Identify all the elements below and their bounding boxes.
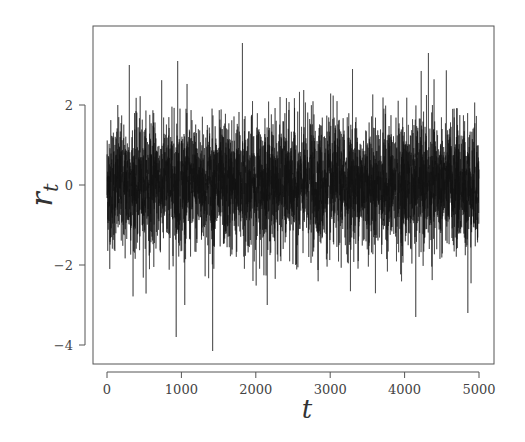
svg-text:rt: rt — [24, 183, 63, 206]
x-tick-label: 2000 — [239, 382, 272, 397]
y-tick-label: 2 — [65, 98, 73, 113]
y-tick-label: −2 — [54, 258, 73, 273]
y-axis-title: rt — [24, 183, 63, 206]
y-axis-title-sub: t — [39, 183, 63, 192]
y-tick-label: 0 — [65, 178, 73, 193]
x-tick-label: 1000 — [165, 382, 198, 397]
x-tick-label: 3000 — [314, 382, 347, 397]
x-tick-label: 5000 — [462, 382, 495, 397]
y-tick-label: −4 — [54, 338, 73, 353]
x-tick-label: 4000 — [388, 382, 421, 397]
x-axis-title: t — [302, 394, 313, 424]
x-tick-label: 0 — [103, 382, 111, 397]
x-axis: 010002000300040005000 — [103, 372, 496, 397]
series-path — [107, 43, 479, 351]
data-series-line — [107, 43, 479, 351]
y-axis: −4−202 — [54, 98, 85, 353]
chart-figure: 010002000300040005000 −4−202 t rt — [0, 0, 525, 442]
